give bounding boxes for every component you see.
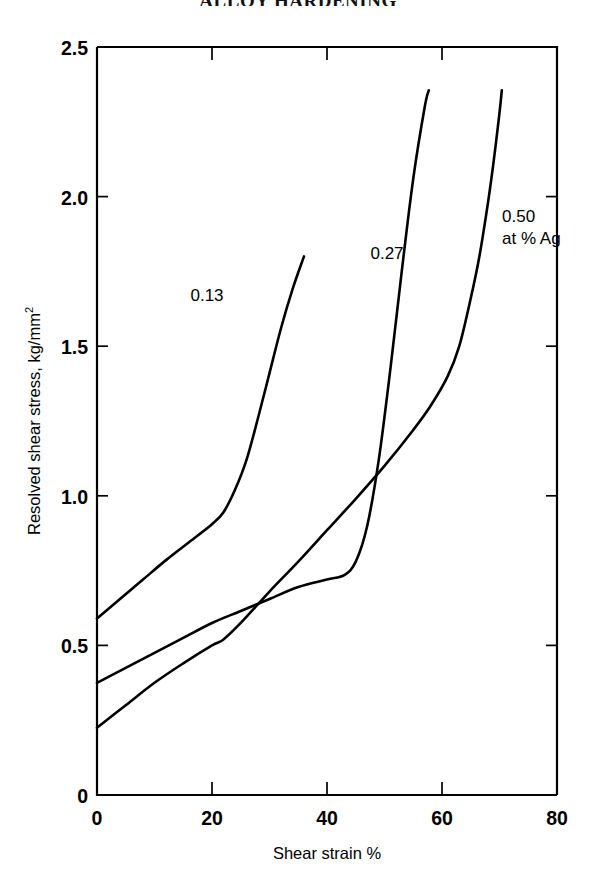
y-tick-label-0: 0 [77, 785, 88, 807]
x-tick-label-0: 0 [92, 807, 103, 829]
y-tick-labels: 0 0.5 1.0 1.5 2.0 2.5 [61, 37, 88, 807]
y-axis-ticks-right [546, 197, 557, 646]
curve-050 [97, 90, 502, 727]
y-axis-title-superscript: 2 [23, 307, 35, 313]
x-tick-label-4: 80 [546, 807, 568, 829]
y-axis-title-group: Resolved shear stress, kg/mm2 [23, 307, 43, 535]
x-axis-ticks-top [212, 47, 442, 60]
y-tick-label-3: 1.5 [61, 336, 88, 358]
y-tick-label-5: 2.5 [61, 37, 88, 59]
figure-container: ALLOY HARDENING [0, 0, 596, 884]
curve-label-050: 0.50 [502, 207, 535, 226]
svg-text:Resolved shear stress, kg/mm2: Resolved shear stress, kg/mm2 [23, 307, 43, 535]
y-tick-label-2: 1.0 [61, 486, 88, 508]
x-tick-label-3: 60 [431, 807, 453, 829]
y-axis-title: Resolved shear stress, kg/mm [25, 313, 43, 535]
x-tick-label-1: 20 [201, 807, 223, 829]
y-tick-label-1: 0.5 [61, 635, 88, 657]
curve-label-027: 0.27 [370, 244, 403, 263]
curve-group [97, 90, 502, 727]
x-axis-ticks [212, 782, 442, 795]
x-tick-labels: 0 20 40 60 80 [92, 807, 568, 829]
x-axis-title: Shear strain % [273, 844, 382, 862]
alloy-hardening-chart: 0 0.5 1.0 1.5 2.0 2.5 0 20 40 60 80 Shea… [0, 0, 596, 884]
curve-label-050-units: at % Ag [502, 229, 561, 248]
x-tick-label-2: 40 [316, 807, 338, 829]
curve-label-013: 0.13 [190, 286, 223, 305]
axis-frame-left-bottom [97, 47, 557, 795]
curve-013 [97, 256, 304, 618]
axis-frame-top-right [97, 47, 557, 795]
figure-title: ALLOY HARDENING [0, 0, 596, 6]
curve-027 [97, 90, 429, 682]
y-tick-label-4: 2.0 [61, 187, 88, 209]
